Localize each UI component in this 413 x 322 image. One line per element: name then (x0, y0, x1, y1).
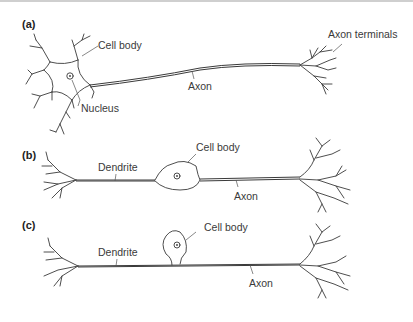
panel-c-label: (c) (22, 219, 36, 231)
panel-b-cell-body-label: Cell body (196, 141, 241, 153)
panel-a-cell-body (26, 34, 94, 134)
panel-b-axon (200, 177, 300, 179)
panel-c-cell-body-label: Cell body (204, 221, 249, 233)
panel-c-axon-terminals (300, 224, 350, 298)
panel-b-dendrite-label: Dendrite (98, 161, 138, 173)
panel-c-cell-body (163, 231, 186, 265)
panel-a-cell-body-label: Cell body (98, 39, 143, 51)
panel-a-axon-label: Axon (188, 80, 212, 92)
panel-b-label: (b) (22, 149, 36, 161)
panel-a-axon-terminals-label: Axon terminals (328, 28, 397, 40)
panel-a-nucleus-label: Nucleus (81, 102, 119, 114)
panel-a-axon-terminals (300, 46, 336, 94)
panel-a-label: (a) (22, 18, 36, 30)
neuron-diagram: (a) (0, 0, 413, 322)
panel-c-dendrite-label: Dendrite (98, 246, 138, 258)
panel-c-dendrite-tree (44, 238, 78, 286)
panel-c-axon-label: Axon (249, 277, 273, 289)
panel-c: (c) (22, 219, 350, 298)
panel-b-axon-label: Axon (234, 190, 258, 202)
panel-b: (b) (22, 138, 350, 212)
panel-b-axon-terminals (300, 138, 350, 212)
panel-b-dendrite-tree (42, 152, 76, 198)
panel-a: (a) (22, 18, 397, 134)
